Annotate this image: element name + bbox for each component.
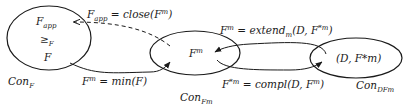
con-f-region-label: ConF <box>8 76 34 87</box>
fm-node-label: Fm <box>189 48 203 59</box>
con-fm-region-label: ConFm <box>180 92 213 103</box>
close-edge-label: Fapp = close(Fm) <box>87 9 172 20</box>
f-app-node-label: Fapp <box>36 16 56 27</box>
extend-arrow <box>215 43 326 54</box>
compl-edge-label: F*m = compl(D, Fm) <box>222 79 324 90</box>
extend-edge-label: Fm = extendm(D, F*m) <box>220 25 332 36</box>
f-node-label: F <box>44 52 51 63</box>
con-dfm-region-label: ConDFm <box>356 80 394 91</box>
d-fstar-node-label: (D, F*m) <box>336 53 381 64</box>
ordering-relation-label: ≥F <box>40 34 54 45</box>
min-edge-label: Fm = min(F) <box>82 76 147 87</box>
